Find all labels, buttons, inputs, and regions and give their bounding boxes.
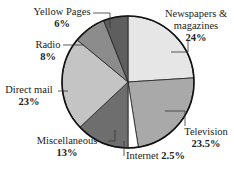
label-television: Television 23.5% — [178, 126, 234, 150]
label-yellow-pages: Yellow Pages 6% — [30, 6, 94, 30]
label-text: Internet — [126, 150, 159, 161]
label-value: 23% — [19, 96, 40, 107]
label-value: 2.5% — [161, 150, 185, 161]
label-newspapers: Newspapers & magazines 24% — [158, 8, 234, 44]
label-text: Yellow Pages — [30, 6, 94, 18]
label-direct-mail: Direct mail 23% — [0, 84, 58, 108]
label-value: 8% — [40, 51, 56, 62]
label-value: 24% — [186, 32, 207, 43]
label-miscellaneous: Miscellaneous 13% — [28, 135, 106, 159]
label-value: 6% — [54, 18, 70, 29]
label-internet: Internet 2.5% — [126, 150, 185, 162]
label-text: Direct mail — [0, 84, 58, 96]
label-value: 23.5% — [192, 138, 221, 149]
label-text: Television — [178, 126, 234, 138]
label-value: 13% — [57, 147, 78, 158]
label-text: Radio — [34, 39, 62, 51]
label-text: Miscellaneous — [28, 135, 106, 147]
label-text-2: magazines — [158, 20, 234, 32]
label-text: Newspapers & — [158, 8, 234, 20]
label-radio: Radio 8% — [34, 39, 62, 63]
